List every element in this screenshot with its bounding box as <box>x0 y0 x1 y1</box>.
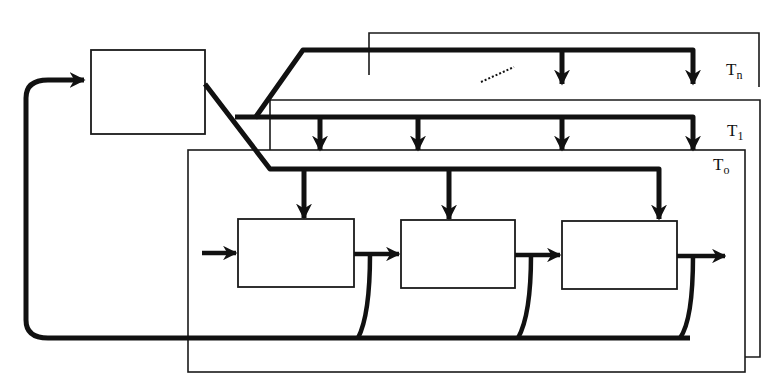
feedback-tap-2 <box>518 255 531 338</box>
layer-label-tn: Tn <box>726 61 742 81</box>
layer-label-t1-main: T <box>727 121 737 140</box>
feedback-tap-3 <box>680 256 693 338</box>
layer-label-t1: T1 <box>727 122 743 142</box>
bus-t0 <box>205 84 659 219</box>
layer-label-tn-sub: n <box>736 68 742 82</box>
bus-t1 <box>235 117 693 150</box>
layer-label-t1-sub: 1 <box>737 129 743 143</box>
layer-label-t0-main: T <box>713 155 723 174</box>
pipeline-block-2 <box>401 220 515 288</box>
controller-block <box>91 50 205 134</box>
bus-tn <box>255 50 693 118</box>
ellipsis-dotted-line <box>481 67 514 82</box>
pipeline-block-1 <box>238 219 354 287</box>
layer-label-t0: To <box>713 156 729 176</box>
layer-label-tn-main: T <box>726 60 736 79</box>
feedback-tap-1 <box>358 254 370 338</box>
layer-label-t0-sub: o <box>723 163 729 177</box>
multi-layer-pipeline-diagram <box>0 0 779 391</box>
pipeline-block-3 <box>562 221 677 289</box>
